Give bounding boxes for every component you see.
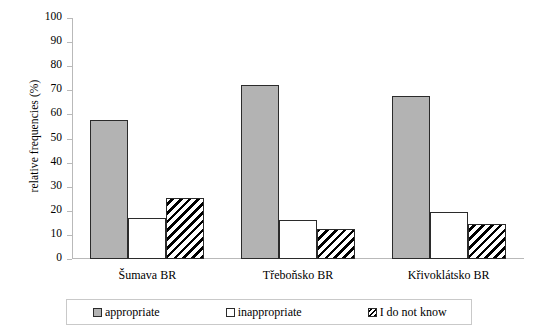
y-tick-label: 10 — [51, 227, 63, 239]
y-tick-label: 20 — [51, 203, 63, 215]
y-tick-mark — [67, 259, 72, 260]
y-tick-label: 90 — [51, 34, 63, 46]
x-axis-label: Křivoklátsko BR — [373, 268, 524, 283]
y-tick-label: 70 — [51, 82, 63, 94]
y-tick-label: 100 — [45, 10, 62, 22]
bar-appropriate — [90, 120, 128, 259]
x-axis-label: Šumava BR — [72, 268, 223, 283]
bar-inappropriate — [128, 218, 166, 259]
legend-item-appropriate: appropriate — [93, 305, 160, 320]
y-tick-label: 60 — [51, 106, 63, 118]
legend-swatch-appropriate-icon — [93, 308, 102, 317]
legend-swatch-inappropriate-icon — [226, 308, 235, 317]
bar-group — [223, 18, 374, 259]
bar-inappropriate — [279, 220, 317, 259]
legend-label-i-do-not-know: I do not know — [380, 305, 447, 320]
bar-chart: relative frequencies (%) 010203040506070… — [0, 0, 539, 335]
legend-item-inappropriate: inappropriate — [226, 305, 302, 320]
chart-legend: appropriate inappropriate I do not know — [66, 299, 472, 325]
legend-item-i-do-not-know: I do not know — [368, 305, 447, 320]
bar-appropriate — [241, 85, 279, 259]
y-tick-label: 40 — [51, 155, 63, 167]
bar-group — [373, 18, 524, 259]
y-axis-title: relative frequencies (%) — [28, 36, 40, 236]
bar-idontknow — [166, 198, 204, 259]
bar-idontknow — [468, 224, 506, 259]
bar-inappropriate — [430, 212, 468, 259]
bar-appropriate — [392, 96, 430, 259]
y-tick-label: 0 — [56, 251, 62, 263]
bar-group — [72, 18, 223, 259]
y-tick-label: 50 — [51, 131, 63, 143]
x-axis-label: Třeboňsko BR — [223, 268, 374, 283]
y-tick-label: 30 — [51, 179, 63, 191]
plot-area: 0102030405060708090100 — [72, 18, 524, 259]
legend-label-appropriate: appropriate — [105, 305, 160, 320]
bar-idontknow — [317, 229, 355, 259]
y-tick-label: 80 — [51, 58, 63, 70]
legend-swatch-i-do-not-know-icon — [368, 308, 377, 317]
legend-label-inappropriate: inappropriate — [238, 305, 302, 320]
